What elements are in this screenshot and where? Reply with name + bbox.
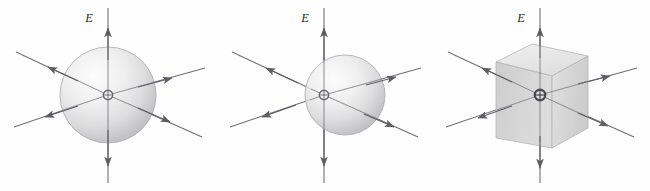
arrow-lower-left-icon [262,105,296,117]
electric-field-label: E [516,11,525,25]
gaussian-sphere [305,55,385,135]
point-charge-symbol [319,90,328,99]
electric-field-label: E [84,11,93,25]
gauss-law-figure: E [0,0,650,191]
cube-front-face [496,62,552,148]
electric-field-label: E [300,11,309,25]
point-charge-symbol [535,90,545,100]
panel-spherical-gaussian-surface-centered: E [0,0,217,191]
panel-spherical-gaussian-surface-offset: E [216,0,433,191]
point-charge-symbol [103,90,112,99]
arrow-upper-left-icon [266,68,298,83]
panel-cubical-gaussian-surface: E [432,0,649,191]
